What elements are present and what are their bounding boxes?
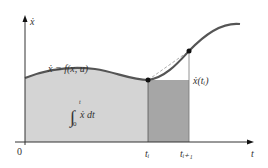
origin-label: 0 [17, 146, 22, 157]
curve-equation-label: ẋ = f(x, u) [47, 63, 89, 75]
integral-lower-limit: 0 [73, 120, 77, 128]
tick-label-t-i1: tᵢ₊₁ [180, 148, 193, 159]
step-area-dark [148, 80, 189, 142]
tangent-dashed-line [148, 51, 189, 80]
y-axis-arrow-icon [23, 15, 28, 22]
point-t-i [146, 78, 151, 83]
tick-label-t-i: tᵢ [145, 148, 150, 159]
integral-area-light [25, 68, 148, 142]
y-axis-label: ẋ [29, 16, 35, 27]
x-axis-label: t [251, 148, 254, 159]
point-value-label: ẋ(tᵢ) [192, 75, 209, 87]
point-t-i1 [187, 49, 192, 54]
integration-diagram: ẋ t 0 ẋ = f(x, u) ∫ t 0 ẋ dt ẋ(tᵢ) tᵢ tᵢ… [0, 0, 268, 168]
x-axis-arrow-icon [247, 140, 254, 145]
integral-integrand: ẋ dt [79, 109, 95, 120]
